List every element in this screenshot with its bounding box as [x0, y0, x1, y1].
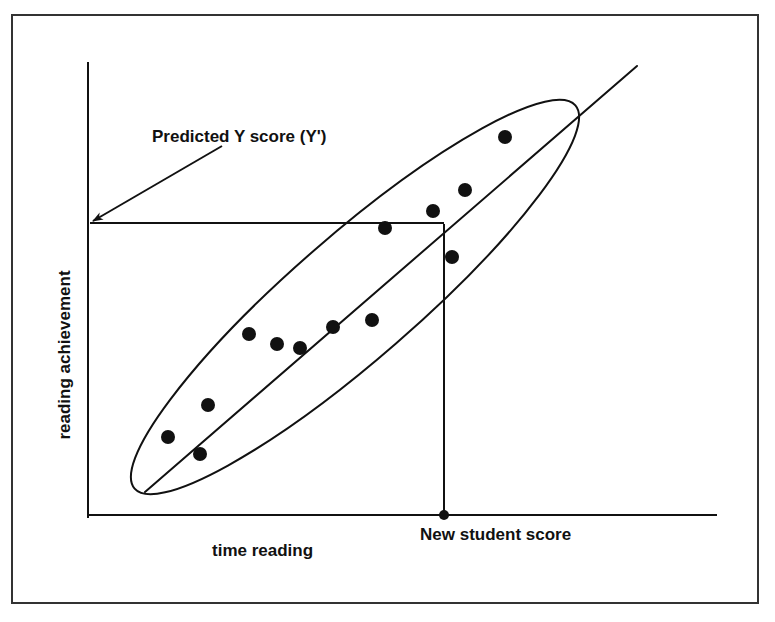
data-point [161, 430, 175, 444]
data-point [458, 183, 472, 197]
data-point [242, 327, 256, 341]
data-point [193, 447, 207, 461]
diagram-canvas: Predicted Y score (Y') New student score… [0, 0, 775, 622]
data-point [201, 398, 215, 412]
predicted-y-score-label: Predicted Y score (Y') [152, 127, 326, 146]
data-point [365, 313, 379, 327]
new-student-score-label: New student score [420, 525, 571, 544]
data-point [426, 204, 440, 218]
y-axis-label: reading achievement [55, 270, 74, 439]
data-point [326, 320, 340, 334]
scatter-diagram-figure: Predicted Y score (Y') New student score… [0, 0, 775, 622]
data-point [378, 221, 392, 235]
data-point [270, 337, 284, 351]
x-axis-label: time reading [212, 541, 313, 560]
data-point [293, 341, 307, 355]
data-point [498, 130, 512, 144]
data-point [445, 250, 459, 264]
new-student-score-marker [439, 510, 449, 520]
